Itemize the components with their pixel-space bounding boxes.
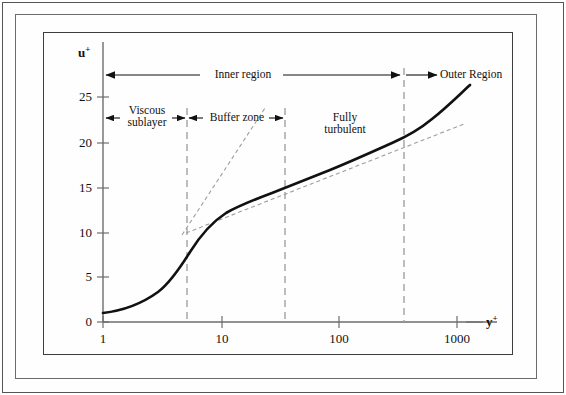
figure-canvas: u+ y+ 25 20 15 10 5 0 1 10 100 1000 Inne… <box>0 0 566 395</box>
y-tick-label-15: 15 <box>62 180 92 196</box>
y-axis-title: u+ <box>78 44 90 61</box>
log-law-line <box>186 124 464 233</box>
x-tick-label-1: 1 <box>80 331 126 347</box>
x-tick-label-100: 100 <box>316 331 362 347</box>
fully-turbulent-line1: Fully <box>333 111 357 123</box>
y-tick-label-0: 0 <box>62 314 92 330</box>
y-tick-label-20: 20 <box>62 135 92 151</box>
y-tick-label-5: 5 <box>62 269 92 285</box>
zone-divider-lines <box>187 68 404 322</box>
x-tick-label-10: 10 <box>199 331 245 347</box>
fully-turbulent-line2: turbulent <box>324 123 366 135</box>
annotation-buffer-zone: Buffer zone <box>206 111 268 123</box>
annotation-outer-region: Outer Region <box>440 68 502 80</box>
annotation-inner-region: Inner region <box>206 68 280 80</box>
annotation-fully-turbulent: Fully turbulent <box>312 111 378 135</box>
viscous-sublayer-line2: sublayer <box>128 116 167 128</box>
y-tick-label-25: 25 <box>62 89 92 105</box>
viscous-sublayer-line1: Viscous <box>129 104 165 116</box>
annotation-viscous-sublayer: Viscous sublayer <box>122 104 172 128</box>
x-axis-title: y+ <box>486 313 498 330</box>
x-tick-label-1000: 1000 <box>434 331 480 347</box>
y-tick-label-10: 10 <box>62 225 92 241</box>
